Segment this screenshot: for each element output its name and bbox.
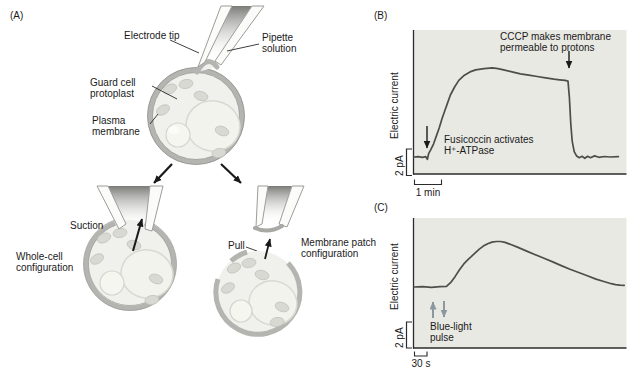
cccp-annotation: CCCP makes membrane permeable to protons	[500, 31, 626, 53]
plot-b	[407, 30, 627, 185]
panel-a-tag: (A)	[10, 10, 23, 21]
membrane-patch-diagram	[216, 186, 304, 335]
plot-b-x-scale-label: 1 min	[412, 187, 444, 198]
membrane-patch-configuration-label: Membrane patch configuration	[301, 237, 379, 259]
divergence-arrow-right	[221, 164, 241, 183]
panel-b-tag: (B)	[374, 10, 387, 21]
nucleus	[230, 300, 252, 322]
guard-cell-protoplast-label: Guard cell protoplast	[90, 77, 154, 99]
plot-b-y-scale-bracket	[407, 149, 413, 176]
blue-light-pulse-annotation: Blue-light pulse	[430, 321, 482, 343]
plot-c-y-scale-bracket	[407, 322, 413, 348]
plot-b-y-axis-label: Electric current	[389, 72, 400, 139]
nucleus	[166, 123, 190, 147]
plasma-membrane-label: Plasma membrane	[92, 115, 154, 137]
plot-b-y-scale-label: 2 pA	[394, 155, 405, 176]
pipette-solution-label: Pipette solution	[262, 32, 316, 54]
guard-cell-protoplast-diagram	[148, 62, 245, 165]
electrode-tip-leader	[170, 40, 199, 53]
plot-c-x-scale-bar	[415, 352, 428, 357]
fusicoccin-annotation: Fusicoccin activates H⁺-ATPase	[444, 134, 548, 156]
pull-label: Pull	[228, 240, 258, 251]
panel-c-tag: (C)	[374, 202, 388, 213]
figure-artwork	[0, 0, 629, 378]
plot-c-x-scale-label: 30 s	[408, 358, 434, 369]
nucleus	[100, 271, 124, 295]
plot-b-x-scale-bar	[415, 180, 442, 185]
plot-c-y-axis-label: Electric current	[389, 243, 400, 310]
suction-label: Suction	[70, 220, 120, 231]
divergence-arrow-left	[154, 164, 172, 183]
whole-cell-diagram	[84, 186, 178, 310]
figure: (A) (B) (C) Electrode tip Pipette soluti…	[0, 0, 629, 378]
pipette	[198, 6, 264, 67]
membrane-patch	[255, 226, 282, 231]
plot-c-y-scale-label: 2 pA	[394, 327, 405, 348]
nucleus-highlight	[168, 126, 180, 134]
whole-cell-configuration-label: Whole-cell configuration	[16, 251, 102, 273]
electrode-tip-label: Electrode tip	[124, 30, 182, 41]
